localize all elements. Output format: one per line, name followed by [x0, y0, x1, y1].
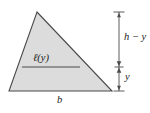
arrowhead-down-icon	[117, 61, 122, 66]
arrowhead-bottom-icon	[117, 86, 121, 90]
arrowhead-up-icon	[117, 68, 122, 73]
figure-canvas	[0, 0, 150, 113]
geometry-figure: ℓ(y) h − y y b	[0, 0, 150, 113]
cross-section-label: ℓ(y)	[33, 53, 49, 64]
upper-segment-label: h − y	[124, 32, 146, 43]
base-label: b	[57, 95, 62, 106]
arrowhead-top-icon	[117, 13, 121, 17]
lower-segment-label: y	[125, 72, 130, 83]
triangle-shape	[9, 12, 112, 91]
